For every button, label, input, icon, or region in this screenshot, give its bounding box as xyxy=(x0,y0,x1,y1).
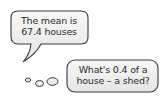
speech-line-1: The mean is xyxy=(12,15,86,26)
thought-bubble-text: What's 0.4 of a house – a shed? xyxy=(70,64,156,86)
thought-dot-large xyxy=(47,78,58,86)
thought-dot-medium xyxy=(36,81,44,87)
thought-line-1: What's 0.4 of a xyxy=(70,64,156,75)
speech-bubble-text: The mean is 67.4 houses xyxy=(12,15,86,37)
speech-line-2: 67.4 houses xyxy=(12,26,86,37)
thought-dot-small xyxy=(25,78,30,82)
thought-line-2: house – a shed? xyxy=(70,75,156,86)
